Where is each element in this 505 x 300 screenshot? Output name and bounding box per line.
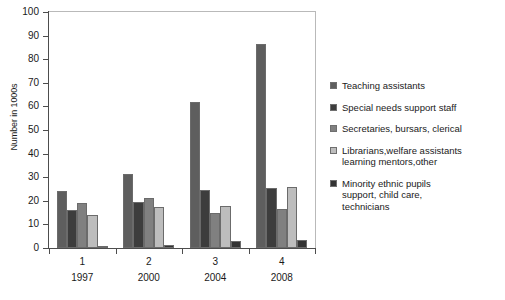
y-axis-label: 70 bbox=[0, 78, 39, 88]
legend-item: Librarians,welfare assistants learning m… bbox=[330, 145, 502, 168]
bar bbox=[297, 240, 307, 248]
legend-label: Secretaries, bursars, clerical bbox=[342, 123, 462, 135]
bar bbox=[190, 102, 200, 248]
bar bbox=[277, 209, 287, 248]
legend-swatch-icon bbox=[330, 147, 337, 154]
y-axis-label: 30 bbox=[0, 172, 39, 182]
x-axis-tick bbox=[49, 249, 50, 254]
bar bbox=[256, 44, 266, 248]
legend-label: Special needs support staff bbox=[342, 102, 456, 114]
bar bbox=[287, 187, 297, 248]
y-axis-label: 20 bbox=[0, 196, 39, 206]
bars-layer bbox=[49, 12, 315, 248]
x-axis-label-year: 1997 bbox=[59, 272, 105, 283]
bar bbox=[133, 202, 143, 248]
x-axis-tick bbox=[182, 249, 183, 254]
bar bbox=[210, 213, 220, 248]
y-axis-label: 80 bbox=[0, 54, 39, 64]
y-axis-label: 90 bbox=[0, 31, 39, 41]
bar bbox=[266, 188, 276, 248]
x-axis-label-year: 2000 bbox=[126, 272, 172, 283]
bar bbox=[220, 206, 230, 248]
y-axis-label: 60 bbox=[0, 101, 39, 111]
x-axis-label-index: 1 bbox=[62, 256, 102, 267]
legend-label: Teaching assistants bbox=[342, 80, 425, 92]
bar bbox=[87, 215, 97, 248]
bar bbox=[57, 191, 67, 248]
bar bbox=[154, 207, 164, 248]
legend-item: Teaching assistants bbox=[330, 80, 502, 92]
legend-swatch-icon bbox=[330, 125, 337, 132]
y-axis-label: 0 bbox=[0, 243, 39, 253]
bar bbox=[231, 241, 241, 248]
bar bbox=[123, 174, 133, 248]
bar bbox=[144, 198, 154, 248]
legend-item: Minority ethnic pupils support, child ca… bbox=[330, 178, 502, 213]
legend-item: Special needs support staff bbox=[330, 102, 502, 114]
legend-swatch-icon bbox=[330, 104, 337, 111]
chart-container: Number in 1000s 0102030405060708090100 1… bbox=[0, 0, 505, 300]
legend-label: Librarians,welfare assistants learning m… bbox=[342, 145, 462, 168]
y-axis-label: 40 bbox=[0, 149, 39, 159]
x-axis-tick bbox=[249, 249, 250, 254]
legend-label: Minority ethnic pupils support, child ca… bbox=[342, 178, 431, 213]
legend-swatch-icon bbox=[330, 180, 337, 187]
legend-item: Secretaries, bursars, clerical bbox=[330, 123, 502, 135]
y-axis-label: 50 bbox=[0, 125, 39, 135]
x-axis-tick bbox=[315, 249, 316, 254]
bar bbox=[77, 203, 87, 248]
x-axis-label-index: 3 bbox=[195, 256, 235, 267]
x-axis-tick bbox=[116, 249, 117, 254]
bar bbox=[200, 190, 210, 248]
y-axis-label: 10 bbox=[0, 219, 39, 229]
bar bbox=[164, 245, 174, 248]
x-axis-label-year: 2004 bbox=[192, 272, 238, 283]
legend-swatch-icon bbox=[330, 82, 337, 89]
x-axis-label-year: 2008 bbox=[259, 272, 305, 283]
bar bbox=[67, 210, 77, 248]
bar bbox=[98, 246, 108, 248]
x-axis-label-index: 4 bbox=[262, 256, 302, 267]
y-axis-title: Number in 1000s bbox=[9, 57, 19, 177]
legend: Teaching assistantsSpecial needs support… bbox=[330, 80, 502, 222]
y-axis-label: 100 bbox=[0, 7, 39, 17]
x-axis-label-index: 2 bbox=[129, 256, 169, 267]
